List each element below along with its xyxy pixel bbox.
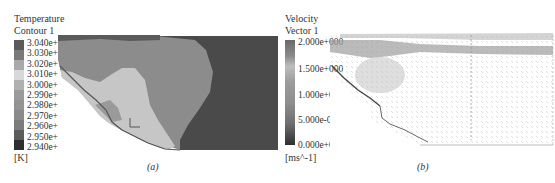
panel-a: Temperature Contour 1 3.040e+002 3.030e+… <box>0 0 280 183</box>
caption-b: (b) <box>417 161 429 172</box>
caption-a: (a) <box>147 161 159 172</box>
temperature-contour-plot <box>0 0 280 183</box>
velocity-vector-plot <box>280 0 555 183</box>
panel-b: Velocity Vector 1 2.000e+000 1.500e+000 … <box>280 0 555 183</box>
